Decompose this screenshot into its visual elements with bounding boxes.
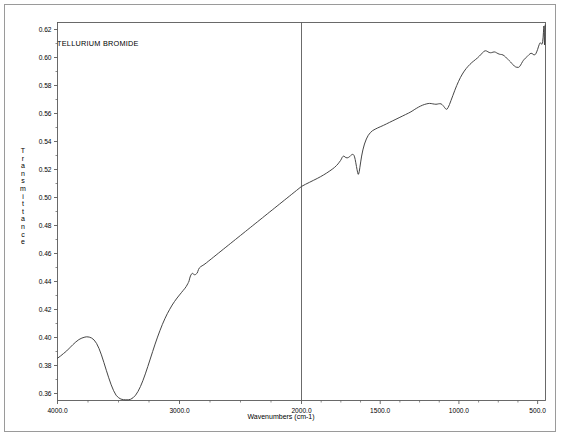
y-axis-tick-label: 0.46 [39,250,52,257]
y-axis-tick-label: 0.62 [39,26,52,33]
ir-spectrum-viewer: Transmittance TELLURIUM BROMIDE Wavenumb… [0,0,562,439]
y-axis-tick-label: 0.50 [39,194,52,201]
y-axis-tick-label: 0.52 [39,166,52,173]
axis-ticks [54,30,538,405]
spectrum-plot: 0.360.380.400.420.440.460.480.500.520.54… [0,0,562,439]
y-axis-tick-label: 0.60 [39,54,52,61]
x-axis-tick-label: 1000.0 [449,407,470,414]
x-axis-tick-label: 4000.0 [47,407,68,414]
y-axis-tick-label: 0.40 [39,334,52,341]
y-axis-tick-label: 0.58 [39,82,52,89]
y-axis-tick-label: 0.42 [39,306,52,313]
x-axis-tick-label: 3000.0 [169,407,190,414]
x-axis-tick-label: 2000.0 [291,407,312,414]
y-axis-tick-label: 0.48 [39,222,52,229]
y-axis-tick-label: 0.36 [39,390,52,397]
y-axis-tick-label: 0.44 [39,278,52,285]
x-axis-tick-label: 500.0 [529,407,546,414]
y-axis-tick-label: 0.54 [39,138,52,145]
x-axis-tick-label: 1500.0 [370,407,391,414]
y-axis-tick-label: 0.56 [39,110,52,117]
axis-tick-labels: 0.360.380.400.420.440.460.480.500.520.54… [39,26,547,414]
y-axis-tick-label: 0.38 [39,362,52,369]
